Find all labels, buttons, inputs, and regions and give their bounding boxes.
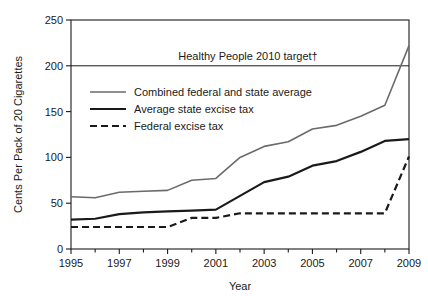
y-tick-label: 50 (51, 197, 63, 209)
y-tick-label: 250 (45, 14, 63, 26)
x-tick-label: 2005 (300, 257, 324, 269)
x-tick-label: 1997 (107, 257, 131, 269)
target-line-label: Healthy People 2010 target† (178, 50, 317, 62)
legend-label-1: Average state excise tax (134, 103, 254, 115)
x-tick-label: 1999 (155, 257, 179, 269)
line-chart: 050100150200250 199519971999200120032005… (0, 0, 428, 296)
chart-figure: 050100150200250 199519971999200120032005… (0, 0, 428, 296)
y-tick-label: 150 (45, 106, 63, 118)
x-axis-title: Year (229, 280, 252, 292)
y-tick-label: 100 (45, 151, 63, 163)
y-tick-label: 200 (45, 60, 63, 72)
x-tick-label: 2001 (204, 257, 228, 269)
y-axis-title: Cents Per Pack of 20 Cigarettes (12, 55, 24, 213)
y-tick-label: 0 (57, 243, 63, 255)
x-tick-label: 2007 (348, 257, 372, 269)
legend-label-2: Federal excise tax (134, 120, 224, 132)
legend-label-0: Combined federal and state average (134, 86, 312, 98)
x-tick-label: 1995 (59, 257, 83, 269)
chart-background (0, 0, 428, 296)
x-tick-label: 2009 (397, 257, 421, 269)
x-tick-label: 2003 (252, 257, 276, 269)
